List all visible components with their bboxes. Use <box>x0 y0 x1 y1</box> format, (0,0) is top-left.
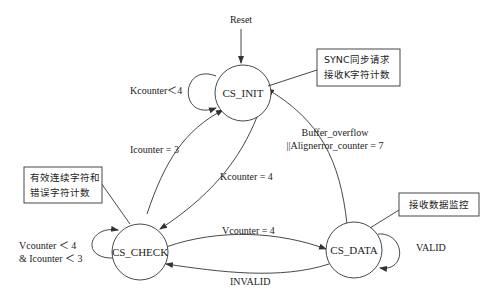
state-cs-data: CS_DATA <box>326 222 382 278</box>
check-to-data-arrow <box>166 234 326 249</box>
reset-label: Reset <box>230 14 252 25</box>
state-cs-init-label: CS_INIT <box>223 87 264 99</box>
data-self-loop-label: VALID <box>416 242 446 253</box>
state-cs-init: CS_INIT <box>215 65 271 121</box>
data-note-connector <box>370 210 399 228</box>
data-to-init-label-2: ||Alignerror_counter = 7 <box>287 140 384 151</box>
init-note: SYNC同步请求 接收K字符计数 <box>317 49 400 86</box>
data-note-line1: 接收数据监控 <box>409 199 469 210</box>
init-note-connector <box>268 70 317 86</box>
init-to-check-label: Kcounter = 4 <box>220 171 273 182</box>
init-note-line2: 接收K字符计数 <box>324 69 390 80</box>
check-note-line1: 有效连续字符和 <box>30 172 100 183</box>
check-to-init-arrow <box>147 110 223 214</box>
init-to-check-arrow <box>160 109 260 229</box>
data-to-init-arrow <box>267 89 347 224</box>
state-cs-data-label: CS_DATA <box>330 244 377 256</box>
data-to-init-label-1: Buffer_overflow <box>301 127 369 138</box>
diagram-svg: Reset Kcounter＜4 Icounter = 3 Kcounter =… <box>0 0 497 300</box>
check-to-data-label: Vcounter = 4 <box>222 225 275 236</box>
state-diagram: Reset Kcounter＜4 Icounter = 3 Kcounter =… <box>0 0 497 300</box>
data-note: 接收数据监控 <box>399 193 479 216</box>
check-self-loop-label-1: Vcounter ＜ 4 <box>19 240 76 251</box>
state-cs-check-label: CS_CHECK <box>112 246 168 258</box>
check-to-init-label: Icounter = 3 <box>130 144 179 155</box>
check-note-line2: 错误字符计数 <box>30 187 90 198</box>
init-self-loop-label: Kcounter＜4 <box>130 85 182 96</box>
check-self-loop-label-2: & Icounter ＜ 3 <box>19 253 83 264</box>
state-cs-check: CS_CHECK <box>112 224 168 280</box>
check-note-connector <box>101 183 130 224</box>
data-to-check-arrow <box>166 264 329 273</box>
check-note: 有效连续字符和 错误字符计数 <box>24 167 102 203</box>
init-self-loop <box>188 74 216 110</box>
data-to-check-label: INVALID <box>230 276 270 287</box>
init-note-line1: SYNC同步请求 <box>324 54 390 65</box>
